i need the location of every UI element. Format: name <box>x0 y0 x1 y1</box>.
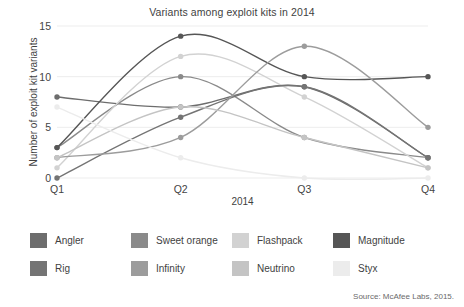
legend-item-neutrino[interactable]: Neutrino <box>232 261 333 276</box>
y-tick-label: 5 <box>45 121 51 133</box>
legend-swatch-icon <box>232 261 249 276</box>
data-point <box>178 54 183 59</box>
legend-item-sweet-orange[interactable]: Sweet orange <box>131 233 232 248</box>
data-point <box>302 175 307 180</box>
y-axis-label: Number of exploit kit variants <box>28 26 44 178</box>
data-point <box>425 125 430 130</box>
legend-label: Sweet orange <box>156 235 218 246</box>
plot-area: Number of exploit kit variants 051015 Q1… <box>57 26 428 178</box>
data-point <box>302 74 307 79</box>
data-point <box>54 155 59 160</box>
chart-title: Variants among exploit kits in 2014 <box>0 6 464 18</box>
x-tick-label: Q4 <box>421 183 435 195</box>
data-point <box>425 74 430 79</box>
data-point <box>425 165 430 170</box>
data-point <box>54 165 59 170</box>
data-point <box>178 104 183 109</box>
legend-item-flashpack[interactable]: Flashpack <box>232 233 333 248</box>
legend-label: Angler <box>55 235 84 246</box>
legend-item-magnitude[interactable]: Magnitude <box>333 233 434 248</box>
legend-item-rig[interactable]: Rig <box>30 261 131 276</box>
data-point <box>178 115 183 120</box>
data-point <box>178 135 183 140</box>
legend-label: Flashpack <box>257 235 303 246</box>
data-point <box>302 94 307 99</box>
legend-swatch-icon <box>232 233 249 248</box>
chart-legend: AnglerSweet orangeFlashpackMagnitudeRigI… <box>30 226 434 282</box>
x-tick-label: Q3 <box>297 183 311 195</box>
legend-item-angler[interactable]: Angler <box>30 233 131 248</box>
legend-swatch-icon <box>333 261 350 276</box>
x-tick-label: Q2 <box>174 183 188 195</box>
data-point <box>425 175 430 180</box>
legend-swatch-icon <box>30 261 47 276</box>
data-point <box>178 74 183 79</box>
data-point <box>54 94 59 99</box>
legend-swatch-icon <box>30 233 47 248</box>
data-point <box>178 155 183 160</box>
series-line-neutrino <box>57 107 428 168</box>
legend-label: Styx <box>358 263 377 274</box>
legend-item-styx[interactable]: Styx <box>333 261 434 276</box>
data-point <box>178 33 183 38</box>
source-note: Source: McAfee Labs, 2015. <box>353 292 454 301</box>
y-tick-label: 15 <box>39 20 51 32</box>
x-axis-label: 2014 <box>57 196 428 207</box>
data-point <box>425 155 430 160</box>
data-point <box>302 44 307 49</box>
x-tick-label: Q1 <box>50 183 64 195</box>
data-point <box>54 145 59 150</box>
legend-label: Infinity <box>156 263 185 274</box>
data-point <box>54 175 59 180</box>
legend-swatch-icon <box>131 261 148 276</box>
series-line-angler <box>57 85 428 158</box>
data-point <box>302 84 307 89</box>
legend-swatch-icon <box>131 233 148 248</box>
data-point <box>302 135 307 140</box>
y-tick-label: 10 <box>39 71 51 83</box>
legend-item-infinity[interactable]: Infinity <box>131 261 232 276</box>
legend-swatch-icon <box>333 233 350 248</box>
chart-container: Variants among exploit kits in 2014 Numb… <box>0 0 464 307</box>
data-point <box>54 104 59 109</box>
legend-label: Magnitude <box>358 235 405 246</box>
legend-label: Rig <box>55 263 70 274</box>
legend-label: Neutrino <box>257 263 295 274</box>
plot-lines <box>57 26 428 178</box>
